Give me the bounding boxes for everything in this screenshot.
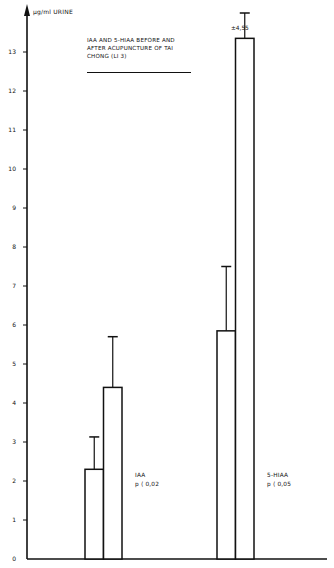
y-tick-label: 2	[2, 477, 16, 484]
y-tick-label: 6	[2, 321, 16, 328]
y-tick-label: 10	[2, 165, 16, 172]
sd-annotation: ±4,55	[231, 25, 249, 31]
y-tick-label: 13	[2, 48, 16, 55]
y-tick-label: 5	[2, 360, 16, 367]
group-name: IAA	[135, 471, 159, 480]
y-tick-label: 12	[2, 87, 16, 94]
y-tick-label: 9	[2, 204, 16, 211]
group-label-5hiaa: 5-HIAA p ⟨ 0,05	[267, 471, 291, 489]
y-axis-arrow-icon	[24, 4, 30, 16]
bar-chart: µg/ml URINE IAA AND 5-HIAA BEFORE AND AF…	[0, 0, 334, 568]
y-tick-label: 8	[2, 243, 16, 250]
bar-iaa-before	[85, 469, 104, 559]
y-tick-label: 1	[2, 516, 16, 523]
title-line-1: IAA AND 5-HIAA BEFORE AND	[87, 36, 207, 44]
title-line-2: AFTER ACUPUNCTURE OF TAI	[87, 44, 207, 52]
y-tick-label: 0	[2, 555, 16, 562]
title-underline	[87, 72, 191, 73]
y-tick-label: 4	[2, 399, 16, 406]
group-label-iaa: IAA p ⟨ 0,02	[135, 471, 159, 489]
p-value: p ⟨ 0,05	[267, 480, 291, 489]
y-axis-label: µg/ml URINE	[33, 8, 73, 15]
group-name: 5-HIAA	[267, 471, 291, 480]
bar-5hiaa-before	[217, 331, 236, 559]
bar-iaa-after	[104, 387, 123, 559]
y-tick-label: 3	[2, 438, 16, 445]
chart-title: IAA AND 5-HIAA BEFORE AND AFTER ACUPUNCT…	[87, 36, 207, 60]
y-tick-label: 7	[2, 282, 16, 289]
y-tick-label: 11	[2, 126, 16, 133]
title-line-3: CHONG (LI 3)	[87, 52, 207, 60]
bar-5hiaa-after	[236, 38, 255, 559]
p-value: p ⟨ 0,02	[135, 480, 159, 489]
